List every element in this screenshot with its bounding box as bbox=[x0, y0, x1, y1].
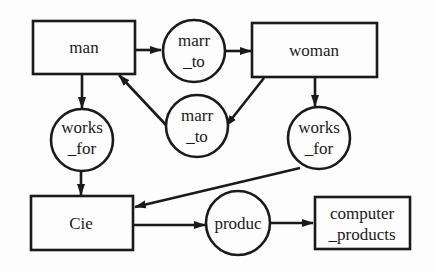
marr-to-1-label-1: marr bbox=[178, 31, 210, 50]
entity-cie: Cie bbox=[31, 196, 133, 250]
er-diagram: man woman Cie computer _products marr _t… bbox=[0, 0, 435, 271]
entity-cie-label: Cie bbox=[69, 214, 93, 233]
relationship-works-for-2: works _for bbox=[288, 107, 350, 169]
relationship-marr-to-1: marr _to bbox=[163, 20, 225, 82]
works-for-2-label-2: _for bbox=[304, 139, 334, 158]
works-for-2-label-1: works bbox=[298, 118, 340, 137]
marr-to-2-label-1: marr bbox=[181, 106, 213, 125]
relationship-works-for-1: works _for bbox=[51, 109, 113, 171]
relationship-marr-to-2: marr _to bbox=[166, 95, 228, 157]
works-for-1-label-2: _for bbox=[67, 139, 97, 158]
entity-man: man bbox=[33, 21, 135, 74]
marr-to-1-label-2: _to bbox=[182, 52, 205, 71]
edge-woman-marr-to-2 bbox=[226, 78, 264, 126]
entity-computer-products-label-2: _products bbox=[327, 225, 395, 244]
produc-label: produc bbox=[214, 214, 262, 233]
entity-woman-label: woman bbox=[289, 41, 340, 60]
edge-marr-to-2-man bbox=[119, 75, 166, 125]
entity-computer-products-label-1: computer bbox=[330, 204, 395, 223]
marr-to-2-label-2: _to bbox=[185, 127, 208, 146]
entity-woman: woman bbox=[252, 23, 377, 77]
works-for-1-label-1: works bbox=[61, 118, 103, 137]
entity-computer-products: computer _products bbox=[315, 197, 410, 249]
relationship-produc: produc bbox=[206, 191, 270, 255]
entity-man-label: man bbox=[69, 38, 99, 57]
